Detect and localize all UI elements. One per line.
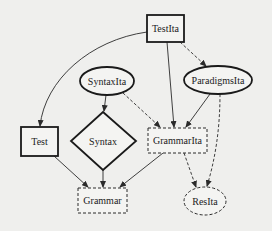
edge-testita-paradigmsita (180, 42, 206, 66)
node-label: ResIta (192, 196, 218, 207)
node-resita[interactable]: ResIta (184, 187, 226, 215)
dependency-graph: TestIta SyntaxIta ParadigmsIta Test Synt… (0, 0, 272, 231)
node-grammar[interactable]: Grammar (78, 188, 127, 213)
edge-paradigmsita-resita (207, 94, 220, 186)
node-paradigmsita[interactable]: ParadigmsIta (184, 66, 252, 94)
edge-grammarita-resita (184, 153, 196, 187)
node-label: Test (31, 136, 48, 147)
node-testita[interactable]: TestIta (147, 15, 184, 42)
edge-test-grammar (54, 156, 88, 187)
node-label: SyntaxIta (88, 76, 127, 87)
node-test[interactable]: Test (21, 127, 58, 156)
node-label: TestIta (152, 23, 180, 34)
node-syntaxita[interactable]: SyntaxIta (80, 67, 134, 95)
edge-testita-grammarita (167, 42, 174, 127)
node-label: ParadigmsIta (192, 75, 245, 86)
node-grammarita[interactable]: GrammarIta (148, 128, 207, 153)
edge-syntaxita-grammarita (123, 93, 160, 127)
edges (40, 32, 220, 187)
node-label: GrammarIta (153, 135, 202, 146)
edge-syntaxita-syntax (104, 95, 106, 111)
edge-paradigmsita-grammarita (186, 94, 210, 127)
edge-grammarita-grammar (120, 153, 163, 187)
node-syntax[interactable]: Syntax (71, 112, 136, 170)
node-label: Grammar (83, 195, 122, 206)
node-label: Syntax (89, 136, 117, 147)
